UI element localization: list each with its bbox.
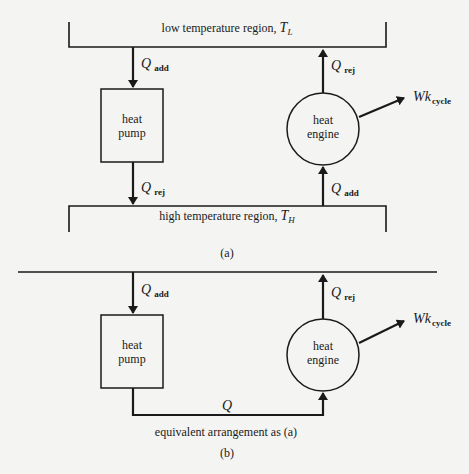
diagram-b: Qadd heat pump Q heat engine Qrej Wkcycl…: [18, 272, 451, 460]
heat-pump-label-1: heat: [122, 112, 143, 126]
low-region-label: low temperature region, TL: [162, 20, 293, 37]
heat-pump-b-label-1: heat: [122, 338, 143, 352]
heat-pump-a: Qadd heat pump Qrej: [101, 47, 169, 204]
caption-b: (b): [220, 446, 234, 460]
heat-engine-b-label-1: heat: [313, 339, 334, 353]
engine-q-rej-label: Qrej: [331, 58, 355, 75]
engine-q-rej-label-b: Qrej: [331, 285, 355, 302]
equivalent-note: equivalent arrangement as (a): [155, 425, 297, 439]
heat-engine-label-2: engine: [307, 127, 339, 141]
low-temperature-reservoir: low temperature region, TL: [69, 20, 386, 47]
heat-pump-engine-diagram: low temperature region, TL high temperat…: [0, 0, 469, 474]
heat-engine-b: heat engine Qrej Wkcycle: [287, 275, 451, 391]
caption-a: (a): [220, 246, 233, 260]
pump-q-add-label: Qadd: [141, 56, 169, 73]
heat-engine-b-label-2: engine: [307, 353, 339, 367]
high-temperature-reservoir: high temperature region, TH: [69, 206, 386, 232]
high-region-label: high temperature region, TH: [159, 208, 295, 225]
heat-pump-b: Qadd heat pump: [101, 272, 169, 388]
work-label-b: Wkcycle: [413, 311, 451, 328]
work-output-arrow-b: [359, 321, 404, 343]
engine-q-add-label: Qadd: [331, 181, 359, 198]
heat-pump-label-2: pump: [118, 126, 145, 140]
work-label: Wkcycle: [413, 89, 451, 106]
work-output-arrow: [359, 98, 404, 117]
diagram-a: low temperature region, TL high temperat…: [69, 20, 451, 260]
heat-pump-b-label-2: pump: [118, 352, 145, 366]
heat-engine-a: Qadd heat engine Qrej Wkcycle: [287, 50, 451, 206]
heat-engine-label-1: heat: [313, 113, 334, 127]
q-transfer-label: Q: [222, 398, 232, 413]
pump-q-add-label-b: Qadd: [141, 282, 169, 299]
pump-q-rej-label: Qrej: [141, 180, 165, 197]
